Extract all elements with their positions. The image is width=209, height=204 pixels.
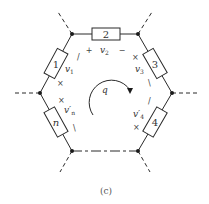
- branch-4: 4 / v′4 ×: [133, 93, 172, 151]
- branch-3-plus: ×: [132, 53, 139, 62]
- circuit-diagram: 2 + v2 − 1 / v1 × 3 × v3 \ 4 / v′4 ×: [0, 0, 209, 204]
- branch-4-plus: ×: [133, 123, 140, 132]
- loop-label: q: [102, 85, 108, 95]
- node: [70, 32, 74, 36]
- branch-3: 3 × v3 \: [132, 34, 172, 93]
- element-4-label: 4: [152, 117, 158, 128]
- branch-2-voltage: v2: [100, 45, 109, 56]
- branch-n-minus: \: [73, 124, 76, 133]
- branch-2-minus: −: [119, 46, 126, 55]
- branch-4-voltage: v′4: [133, 109, 144, 120]
- branch-1-plus: ×: [57, 79, 64, 88]
- branch-4-minus: /: [148, 97, 151, 106]
- node: [136, 32, 140, 36]
- element-n-label: n: [53, 117, 59, 128]
- branch-n-voltage: v′n: [64, 105, 75, 116]
- branch-3-minus: \: [148, 79, 151, 88]
- branch-2-plus: +: [86, 46, 93, 55]
- loop-current: q: [89, 80, 133, 115]
- branch-1-minus: /: [77, 53, 80, 62]
- branch-3-voltage: v3: [135, 64, 144, 75]
- element-2-label: 2: [103, 29, 109, 40]
- node: [170, 91, 174, 95]
- loop-arrowhead-icon: [127, 88, 133, 94]
- branch-n-plus: ×: [58, 96, 65, 105]
- branch-2: 2 + v2 −: [72, 28, 138, 56]
- node: [38, 91, 42, 95]
- node: [136, 149, 140, 153]
- loop-arc: [89, 80, 130, 115]
- branch-1: 1 / v1 ×: [40, 34, 80, 93]
- branch-1-voltage: v1: [65, 64, 74, 75]
- figure-caption: (c): [100, 186, 112, 196]
- node: [70, 149, 74, 153]
- element-3-label: 3: [152, 59, 158, 70]
- element-1-label: 1: [53, 59, 59, 70]
- branch-n: n × v′n \: [40, 93, 76, 151]
